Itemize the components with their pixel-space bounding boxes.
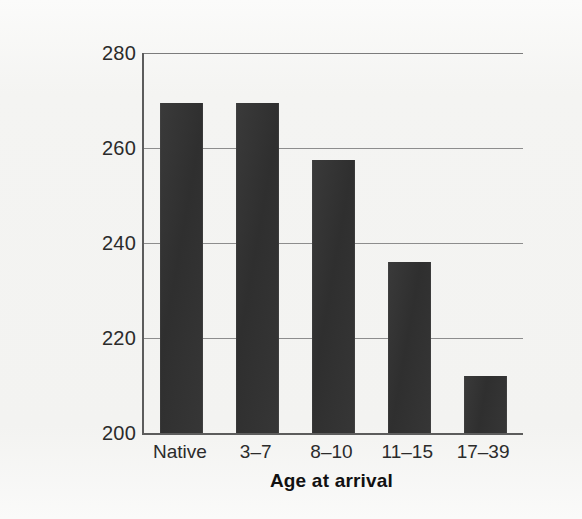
bar	[464, 376, 507, 433]
bar	[236, 103, 279, 433]
y-tick-label-260: 260	[78, 137, 136, 160]
x-tick-label: 8–10	[310, 441, 352, 463]
x-axis-title: Age at arrival	[142, 470, 521, 492]
bar-series	[144, 53, 523, 433]
bar	[312, 160, 355, 433]
bar	[160, 103, 203, 433]
bar	[388, 262, 431, 433]
x-tick-label: 3–7	[240, 441, 272, 463]
y-tick-label-280: 280	[78, 42, 136, 65]
y-tick-label-220: 220	[78, 327, 136, 350]
x-tick-label: Native	[153, 441, 207, 463]
x-tick-label: 11–15	[382, 441, 433, 463]
y-tick-label-200: 200	[78, 422, 136, 445]
x-tick-label: 17–39	[457, 441, 510, 463]
y-tick-label-240: 240	[78, 232, 136, 255]
plot-area	[142, 53, 523, 435]
x-axis-tick-labels: Native3–78–1011–1517–39	[142, 441, 521, 469]
y-axis-tick-labels: 200220240260280	[78, 53, 136, 433]
chart-figure: 200220240260280 Native3–78–1011–1517–39 …	[0, 0, 582, 519]
